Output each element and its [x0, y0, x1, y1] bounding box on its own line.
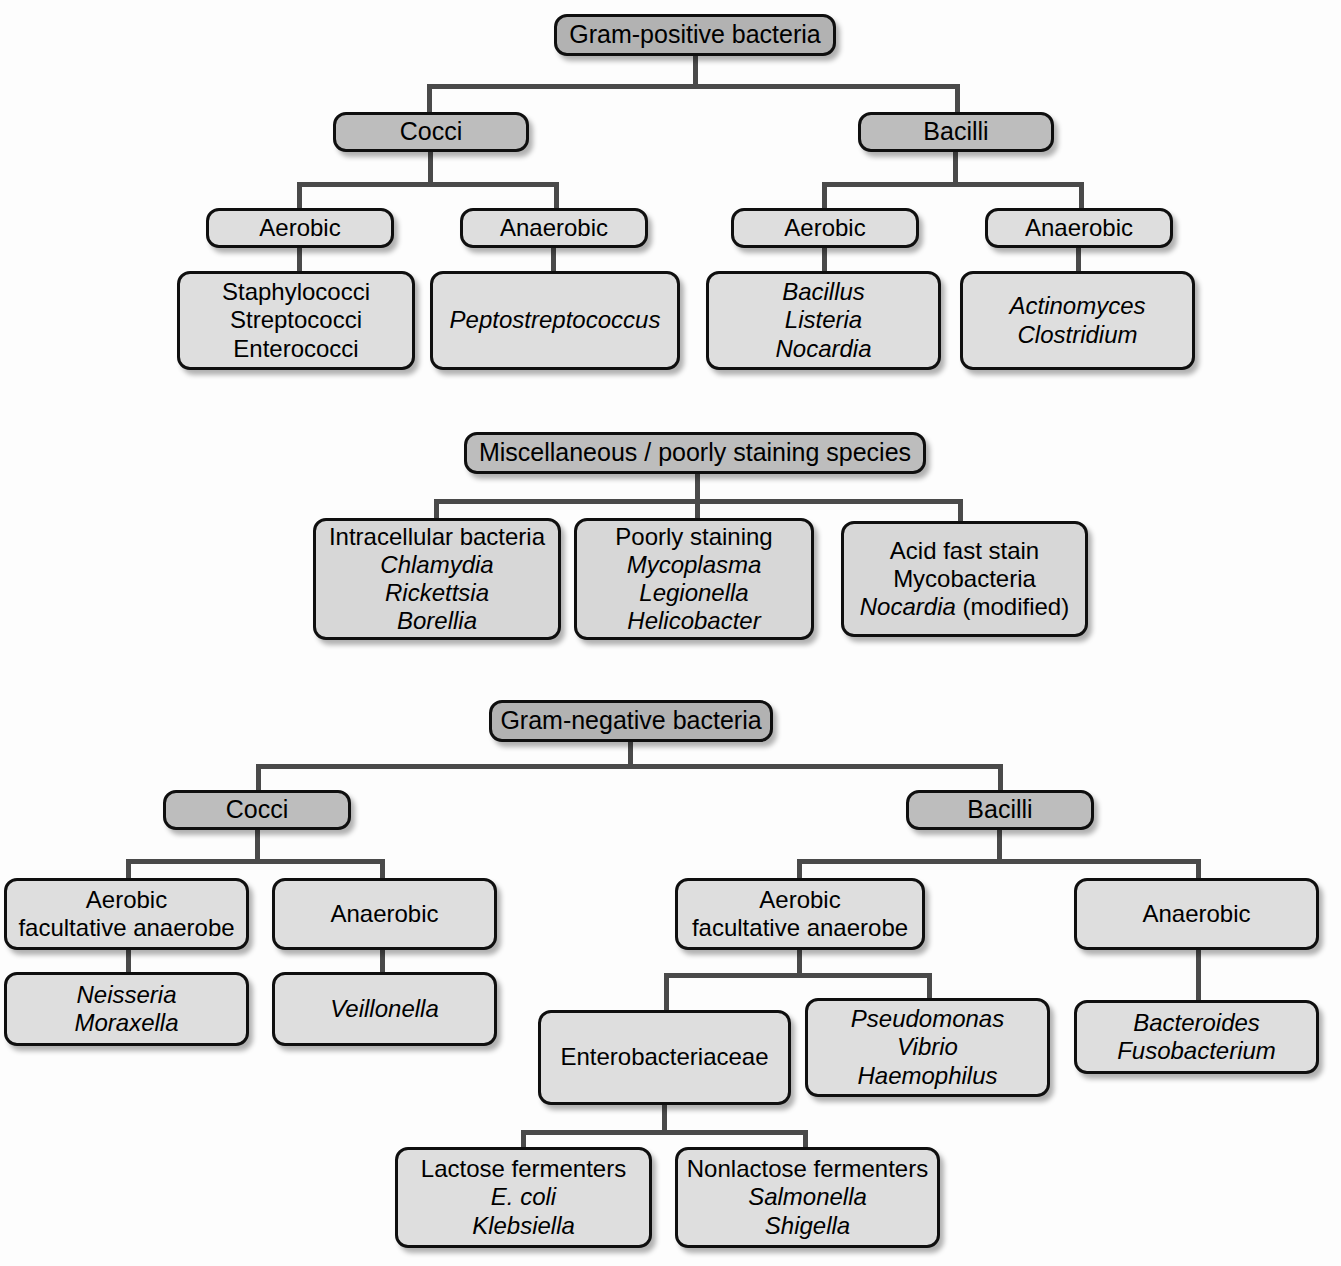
organism: Rickettsia: [322, 579, 552, 607]
gn-bacilli-aerobic-node[interactable]: Aerobic facultative anaerobe: [675, 878, 925, 950]
connector-gn-cocci-aer-stem: [126, 948, 131, 975]
gp-cocci-anaerobic-organisms[interactable]: Peptostreptococcus: [430, 271, 680, 370]
connector-gp-cocci-stem: [428, 152, 433, 184]
gp-bacilli-aerobic-node[interactable]: Aerobic: [731, 208, 919, 248]
connector-gp-bacilli-aer-drop: [822, 182, 827, 210]
organism: Fusobacterium: [1083, 1037, 1310, 1065]
gn-bacilli-label: Bacilli: [915, 795, 1085, 824]
organism: Pseudomonas: [814, 1005, 1041, 1033]
organism: Moraxella: [13, 1009, 240, 1037]
gp-bacilli-aerobic-label: Aerobic: [740, 214, 910, 242]
connector-enterobacteriaceae-drop: [664, 973, 669, 1013]
gn-bacilli-aerobic-other-organisms[interactable]: Pseudomonas Vibrio Haemophilus: [805, 998, 1050, 1097]
connector-gp-root-stem: [693, 56, 698, 86]
gn-lactose-fermenters-node[interactable]: Lactose fermenters E. coli Klebsiella: [395, 1147, 652, 1248]
gn-cocci-aerobic-node[interactable]: Aerobic facultative anaerobe: [4, 878, 249, 950]
connector-gp-bacilli-aer-stem: [822, 246, 827, 274]
organism: Actinomyces: [969, 292, 1186, 320]
gp-cocci-anaerobic-label: Anaerobic: [469, 214, 639, 242]
organism: Bacillus: [715, 278, 932, 306]
gn-enterobacteriaceae-node[interactable]: Enterobacteriaceae: [538, 1010, 791, 1105]
organism: Enterococci: [186, 335, 406, 363]
organism: Salmonella: [684, 1183, 931, 1211]
organism: Borellia: [322, 607, 552, 635]
organism: Bacteroides: [1083, 1009, 1310, 1037]
gp-cocci-node[interactable]: Cocci: [333, 112, 529, 152]
organism: Legionella: [583, 579, 805, 607]
gram-positive-root-node[interactable]: Gram-positive bacteria: [554, 14, 836, 56]
connector-gp-bacilli-ana-stem: [1076, 246, 1081, 274]
gp-bacilli-node[interactable]: Bacilli: [858, 112, 1054, 152]
gn-bacilli-aerobic-label-line1: Aerobic: [684, 886, 916, 914]
connector-gp-cocci-aer-stem: [297, 246, 302, 274]
group-heading: Poorly staining: [583, 523, 805, 551]
gram-negative-root-label: Gram-negative bacteria: [498, 706, 764, 735]
gram-negative-root-node[interactable]: Gram-negative bacteria: [489, 700, 773, 742]
group-heading: Intracellular bacteria: [322, 523, 552, 551]
organism: Vibrio: [814, 1033, 1041, 1061]
connector-entero-stem: [662, 1103, 667, 1133]
misc-group-poorly-staining[interactable]: Poorly staining Mycoplasma Legionella He…: [574, 518, 814, 640]
gn-cocci-anaerobic-label: Anaerobic: [281, 900, 488, 928]
miscellaneous-root-node[interactable]: Miscellaneous / poorly staining species: [464, 432, 926, 474]
organism-upright-part: (modified): [956, 593, 1069, 620]
gp-cocci-aerobic-organisms[interactable]: Staphylococci Streptococci Enterococci: [177, 271, 415, 370]
connector-gn-cocci-stem: [255, 830, 260, 862]
gn-bacilli-node[interactable]: Bacilli: [906, 790, 1094, 830]
organism-mixed: Nocardia (modified): [850, 593, 1079, 621]
connector-gn-root-bar: [256, 764, 1003, 769]
connector-gn-cocci-ana-stem: [380, 948, 385, 975]
connector-gn-bacilli-aer-bar: [664, 973, 932, 978]
misc-group-intracellular[interactable]: Intracellular bacteria Chlamydia Rickett…: [313, 518, 561, 640]
gn-cocci-aerobic-label-line1: Aerobic: [13, 886, 240, 914]
gn-cocci-anaerobic-node[interactable]: Anaerobic: [272, 878, 497, 950]
gram-positive-root-label: Gram-positive bacteria: [563, 20, 827, 49]
gn-nonlactose-fermenters-node[interactable]: Nonlactose fermenters Salmonella Shigell…: [675, 1147, 940, 1248]
gn-cocci-label: Cocci: [172, 795, 342, 824]
gp-bacilli-anaerobic-label: Anaerobic: [994, 214, 1164, 242]
organism: E. coli: [404, 1183, 643, 1211]
organism: Shigella: [684, 1212, 931, 1240]
organism-italic-part: Nocardia: [860, 593, 956, 620]
gn-cocci-anaerobic-organisms[interactable]: Veillonella: [272, 972, 497, 1046]
gp-bacilli-aerobic-organisms[interactable]: Bacillus Listeria Nocardia: [706, 271, 941, 370]
organism: Mycoplasma: [583, 551, 805, 579]
connector-pseudomonas-drop: [927, 973, 932, 1001]
gp-cocci-aerobic-label: Aerobic: [215, 214, 385, 242]
gn-cocci-aerobic-label-line2: facultative anaerobe: [13, 914, 240, 942]
connector-misc-root-stem: [695, 474, 700, 502]
gp-cocci-aerobic-node[interactable]: Aerobic: [206, 208, 394, 248]
gn-bacilli-aerobic-label-line2: facultative anaerobe: [684, 914, 916, 942]
connector-gn-bacilli-bar: [797, 859, 1201, 864]
connector-gp-cocci-aer-drop: [297, 182, 302, 210]
connector-entero-bar: [521, 1130, 808, 1135]
connector-gp-bacilli-stem: [953, 152, 958, 184]
organism: Streptococci: [186, 306, 406, 334]
gn-cocci-node[interactable]: Cocci: [163, 790, 351, 830]
organism: Peptostreptococcus: [439, 306, 671, 334]
group-heading: Acid fast stain: [850, 537, 1079, 565]
connector-gp-root-bar: [427, 84, 960, 89]
group-heading: Lactose fermenters: [404, 1155, 643, 1183]
connector-gp-cocci-ana-stem: [551, 246, 556, 274]
miscellaneous-root-label: Miscellaneous / poorly staining species: [473, 438, 917, 467]
organism: Klebsiella: [404, 1212, 643, 1240]
gn-bacilli-anaerobic-node[interactable]: Anaerobic: [1074, 878, 1319, 950]
connector-gn-bacilli-drop: [998, 764, 1003, 792]
connector-gn-cocci-bar: [126, 859, 385, 864]
gp-bacilli-anaerobic-node[interactable]: Anaerobic: [985, 208, 1173, 248]
gn-bacilli-anaerobic-label: Anaerobic: [1083, 900, 1310, 928]
connector-gn-bacilli-stem: [997, 830, 1002, 862]
gp-cocci-anaerobic-node[interactable]: Anaerobic: [460, 208, 648, 248]
gp-bacilli-label: Bacilli: [867, 117, 1045, 146]
gp-bacilli-anaerobic-organisms[interactable]: Actinomyces Clostridium: [960, 271, 1195, 370]
connector-misc-c3-drop: [958, 499, 963, 521]
connector-gp-cocci-ana-drop: [554, 182, 559, 210]
gn-bacilli-anaerobic-organisms[interactable]: Bacteroides Fusobacterium: [1074, 1000, 1319, 1074]
connector-gp-cocci-bar: [297, 182, 559, 187]
connector-gn-bacilli-ana-stem: [1196, 948, 1201, 1003]
gn-cocci-aerobic-organisms[interactable]: Neisseria Moraxella: [4, 972, 249, 1046]
connector-gp-bacilli-bar: [822, 182, 1084, 187]
group-heading: Nonlactose fermenters: [684, 1155, 931, 1183]
misc-group-acid-fast[interactable]: Acid fast stain Mycobacteria Nocardia (m…: [841, 521, 1088, 637]
